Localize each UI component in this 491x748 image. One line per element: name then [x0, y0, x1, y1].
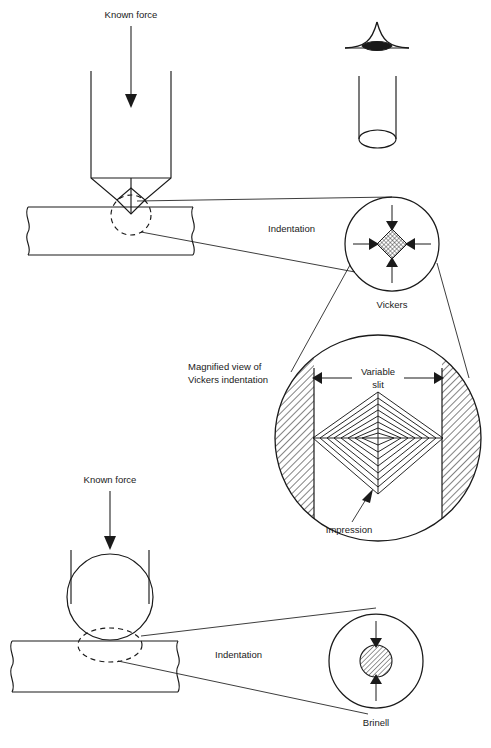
known-force-arrow-top	[125, 26, 137, 108]
pyramid-tip-cylinder-inset	[345, 22, 409, 148]
diagram-canvas: Known force Indentation Vickers Magnifie…	[0, 0, 491, 748]
cylindrical-shaft	[359, 76, 396, 148]
indentation-label-top: Indentation	[268, 223, 315, 234]
brinell-impression	[360, 645, 392, 677]
variable-slit-label-line2: slit	[372, 379, 384, 390]
vickers-test-group	[27, 26, 439, 291]
pyramid-tip-apex	[345, 22, 409, 51]
impression-leader	[352, 489, 373, 522]
variable-slit-label-line1: Variable	[361, 366, 395, 377]
indentation-label-bottom: Indentation	[215, 649, 262, 660]
brinell-detail-circle	[329, 614, 423, 708]
hardness-test-diagram: Known force Indentation Vickers Magnifie…	[0, 0, 491, 748]
callout-leaders-brinell	[118, 608, 376, 714]
ball-indenter	[67, 554, 153, 640]
diamond-impression	[313, 392, 443, 494]
vickers-detail-circle	[345, 197, 439, 291]
impression-label: Impression	[326, 524, 372, 535]
specimen-bar-bottom	[11, 641, 180, 692]
ball-holder-rails	[71, 550, 149, 604]
magnified-view-label-line1: Magnified view of	[188, 361, 262, 372]
magnified-view-label-line2: Vickers indentation	[188, 374, 268, 385]
known-force-arrow-bottom	[104, 491, 116, 550]
callout-leaders-vickers	[137, 197, 392, 272]
known-force-label-bottom: Known force	[84, 474, 137, 485]
vickers-label: Vickers	[377, 299, 408, 310]
brinell-label: Brinell	[363, 717, 389, 728]
known-force-label-top: Known force	[105, 9, 158, 20]
